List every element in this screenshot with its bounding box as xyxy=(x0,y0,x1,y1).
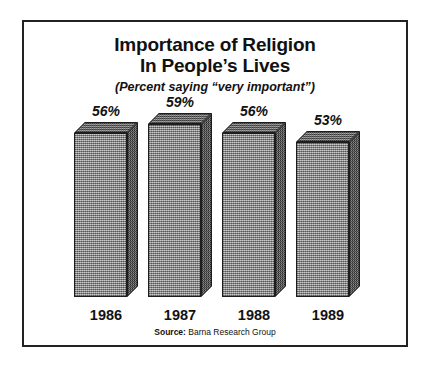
value-label-1987: 59% xyxy=(148,94,212,110)
chart-figure: Importance of Religion In People’s Lives… xyxy=(0,0,431,367)
bar-side-face xyxy=(349,131,360,297)
plot-area: 56% 1986 59% 1987 56% xyxy=(24,22,410,349)
bar-1988[interactable] xyxy=(222,122,286,297)
chart-source: Source: Barna Research Group xyxy=(24,327,406,337)
source-key: Source: xyxy=(154,327,186,337)
bar-side-face xyxy=(275,122,286,297)
bar-front-face xyxy=(74,133,127,297)
chart-frame: Importance of Religion In People’s Lives… xyxy=(22,20,408,347)
year-label-1988: 1988 xyxy=(214,307,294,323)
value-label-1986: 56% xyxy=(74,103,138,119)
bar-1987[interactable] xyxy=(148,113,212,297)
bar-front-face xyxy=(148,124,201,297)
bar-group-1986: 56% 1986 xyxy=(74,96,138,349)
bar-front-face xyxy=(296,142,349,297)
bar-front-face xyxy=(222,133,275,297)
source-value: Barna Research Group xyxy=(188,327,275,337)
year-label-1989: 1989 xyxy=(288,307,368,323)
bar-group-1988: 56% 1988 xyxy=(222,96,286,349)
year-label-1987: 1987 xyxy=(140,307,220,323)
value-label-1989: 53% xyxy=(296,112,360,128)
year-label-1986: 1986 xyxy=(66,307,146,323)
bar-1989[interactable] xyxy=(296,131,360,297)
bar-group-1989: 53% 1989 xyxy=(296,105,360,349)
value-label-1988: 56% xyxy=(222,103,286,119)
bar-side-face xyxy=(201,113,212,297)
bar-1986[interactable] xyxy=(74,122,138,297)
bar-group-1987: 59% 1987 xyxy=(148,87,212,349)
bar-side-face xyxy=(127,122,138,297)
